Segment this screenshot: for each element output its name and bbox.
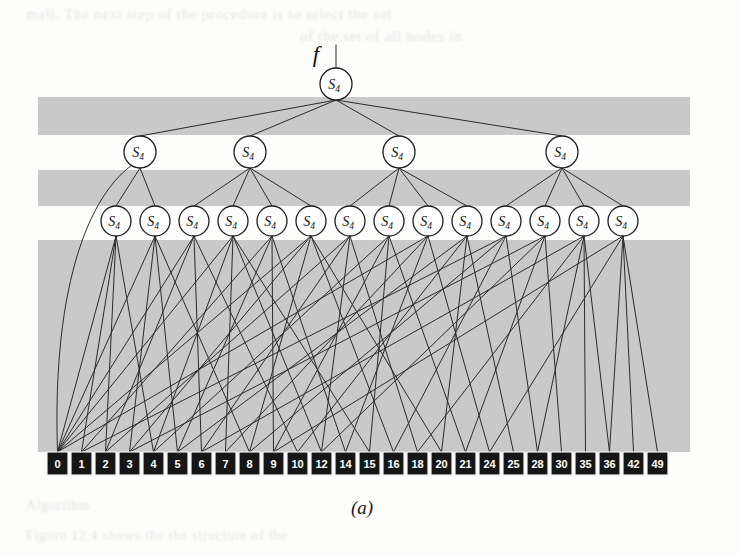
tree-node-level3-11: S4 <box>530 206 560 236</box>
leaf-node-36: 36 <box>599 452 620 475</box>
tree-node-level3-0: S4 <box>101 206 131 236</box>
leaf-label-5: 5 <box>174 458 180 470</box>
leaf-node-24: 24 <box>479 452 500 475</box>
leaf-node-2: 2 <box>95 452 116 475</box>
leaf-node-16: 16 <box>383 452 404 475</box>
leaf-label-36: 36 <box>603 458 615 470</box>
leaf-label-6: 6 <box>198 458 204 470</box>
tree-node-level2-2: S4 <box>383 136 415 168</box>
leaf-label-8: 8 <box>246 458 252 470</box>
leaf-node-15: 15 <box>359 452 380 475</box>
leaf-label-4: 4 <box>150 458 157 470</box>
leaf-label-30: 30 <box>555 458 567 470</box>
leaf-node-5: 5 <box>167 452 188 475</box>
tree-diagram: S4S4S4S4S4S4S4S4S4S4S4S4S4S4S4S4S4S4S4 0… <box>0 0 739 556</box>
leaf-label-18: 18 <box>411 458 423 470</box>
root-edge-label-f: f <box>313 42 323 67</box>
leaf-node-6: 6 <box>191 452 212 475</box>
figure-container: mall. The next step of the procedure is … <box>0 0 739 556</box>
leaf-label-25: 25 <box>507 458 519 470</box>
leaf-label-16: 16 <box>387 458 399 470</box>
leaf-node-7: 7 <box>215 452 236 475</box>
leaf-label-28: 28 <box>531 458 543 470</box>
leaf-nodes: 0123456789101214151618202124252830353642… <box>47 452 668 475</box>
leaf-label-35: 35 <box>579 458 591 470</box>
leaf-node-30: 30 <box>551 452 572 475</box>
leaf-label-10: 10 <box>291 458 303 470</box>
tree-node-level2-0: S4 <box>124 136 156 168</box>
tree-node-level3-12: S4 <box>569 206 599 236</box>
background-band-3 <box>38 240 690 452</box>
leaf-node-10: 10 <box>287 452 308 475</box>
tree-node-level3-2: S4 <box>179 206 209 236</box>
leaf-node-14: 14 <box>335 452 356 475</box>
leaf-label-15: 15 <box>363 458 375 470</box>
leaf-label-49: 49 <box>651 458 663 470</box>
leaf-label-9: 9 <box>270 458 276 470</box>
leaf-label-21: 21 <box>459 458 471 470</box>
tree-node-level3-10: S4 <box>491 206 521 236</box>
tree-node-level3-6: S4 <box>335 206 365 236</box>
leaf-label-20: 20 <box>435 458 447 470</box>
leaf-node-49: 49 <box>647 452 668 475</box>
leaf-node-12: 12 <box>311 452 332 475</box>
tree-node-level2-3: S4 <box>546 136 578 168</box>
tree-node-level3-1: S4 <box>140 206 170 236</box>
leaf-node-25: 25 <box>503 452 524 475</box>
leaf-node-4: 4 <box>143 452 164 475</box>
leaf-node-0: 0 <box>47 452 68 475</box>
tree-node-level2-1: S4 <box>234 136 266 168</box>
leaf-node-8: 8 <box>239 452 260 475</box>
leaf-label-14: 14 <box>339 458 352 470</box>
leaf-label-24: 24 <box>483 458 496 470</box>
leaf-node-28: 28 <box>527 452 548 475</box>
leaf-node-42: 42 <box>623 452 644 475</box>
leaf-node-18: 18 <box>407 452 428 475</box>
leaf-label-42: 42 <box>627 458 639 470</box>
leaf-node-9: 9 <box>263 452 284 475</box>
tree-node-level3-3: S4 <box>218 206 248 236</box>
tree-node-level3-5: S4 <box>296 206 326 236</box>
tree-node-level3-4: S4 <box>257 206 287 236</box>
tree-node-level3-13: S4 <box>608 206 638 236</box>
figure-caption: (a) <box>351 497 373 519</box>
leaf-node-35: 35 <box>575 452 596 475</box>
tree-node-level3-7: S4 <box>374 206 404 236</box>
leaf-node-20: 20 <box>431 452 452 475</box>
tree-node-level3-9: S4 <box>452 206 482 236</box>
leaf-node-1: 1 <box>71 452 92 475</box>
leaf-label-12: 12 <box>315 458 327 470</box>
tree-node-level3-8: S4 <box>413 206 443 236</box>
leaf-node-3: 3 <box>119 452 140 475</box>
leaf-label-2: 2 <box>102 458 108 470</box>
leaf-label-3: 3 <box>126 458 132 470</box>
tree-nodes: S4S4S4S4S4S4S4S4S4S4S4S4S4S4S4S4S4S4S4 <box>101 68 638 236</box>
tree-node-root: S4 <box>320 68 352 100</box>
leaf-label-7: 7 <box>222 458 228 470</box>
leaf-label-1: 1 <box>78 458 84 470</box>
leaf-label-0: 0 <box>54 458 60 470</box>
leaf-node-21: 21 <box>455 452 476 475</box>
